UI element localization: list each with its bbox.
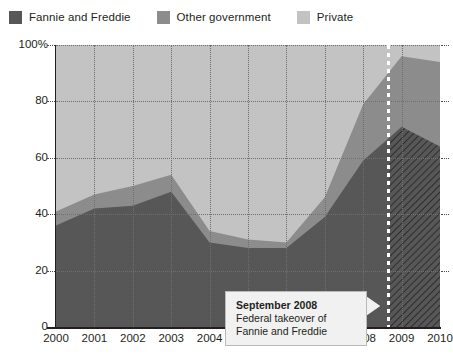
y-axis-tick-stub [47, 101, 55, 102]
gridline-vertical [248, 45, 249, 327]
x-axis-tick-label: 2001 [82, 332, 108, 344]
plot-area [56, 45, 440, 327]
y-axis-tick-stub [47, 214, 55, 215]
legend-swatch-private [297, 11, 310, 24]
gridline-vertical [363, 45, 364, 327]
y-axis-labels: 020406080100% [0, 34, 52, 354]
gridline-vertical [94, 45, 95, 327]
gridline-vertical [133, 45, 134, 327]
annotation-line-2: Fannie and Freddie [236, 325, 358, 338]
right-edge-tick [441, 45, 449, 46]
gridline-horizontal [56, 271, 440, 272]
y-axis-tick-label: 100% [19, 39, 48, 50]
right-edge-tick [441, 271, 449, 272]
gridline-horizontal [56, 214, 440, 215]
x-axis-tick-label: 2009 [389, 332, 415, 344]
right-edge-tick [441, 214, 449, 215]
right-edge-tick [441, 101, 449, 102]
chart-legend: Fannie and Freddie Other government Priv… [0, 0, 453, 34]
y-axis-tick-stub [47, 271, 55, 272]
gridline-horizontal [56, 158, 440, 159]
gridline-vertical [325, 45, 326, 327]
legend-item-other-government: Other government [157, 11, 271, 24]
annotation-line-1: Federal takeover of [236, 312, 358, 325]
gridline-vertical [286, 45, 287, 327]
x-axis-tick-label: 2010 [427, 332, 453, 344]
x-axis-tick-label: 2004 [197, 332, 223, 344]
x-axis-tick-label: 2003 [158, 332, 184, 344]
gridline-horizontal [56, 101, 440, 102]
gridline-vertical [210, 45, 211, 327]
legend-label-fannie-freddie: Fannie and Freddie [29, 11, 131, 24]
y-axis-tick-stub [47, 45, 55, 46]
legend-item-fannie-freddie: Fannie and Freddie [9, 11, 131, 24]
legend-item-private: Private [297, 11, 354, 24]
gridline-vertical [402, 45, 403, 327]
event-marker-line [387, 45, 390, 327]
callout-pointer [367, 297, 380, 315]
annotation-callout: September 2008 Federal takeover of Fanni… [225, 291, 367, 346]
annotation-title: September 2008 [236, 299, 358, 312]
gridline-vertical [171, 45, 172, 327]
legend-label-private: Private [317, 11, 354, 24]
y-axis-tick-stub [47, 158, 55, 159]
stacked-area-chart: 020406080100% [0, 34, 453, 354]
legend-swatch-other-government [157, 11, 170, 24]
y-axis-line [55, 45, 56, 328]
x-axis-tick-label: 2002 [120, 332, 146, 344]
legend-swatch-fannie-freddie [9, 11, 22, 24]
gridline-horizontal [56, 45, 440, 46]
x-axis-tick-label: 2000 [43, 332, 69, 344]
legend-label-other-government: Other government [177, 11, 271, 24]
right-edge-tick [441, 158, 449, 159]
